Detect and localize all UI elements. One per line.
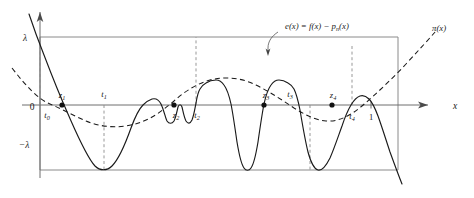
label-x-axis: x [452,101,458,111]
label-tick-one: 1 [369,112,373,122]
label-t0: t0 [44,110,50,121]
label-t2: t2 [194,110,199,121]
label-upper-lambda: λ [22,33,27,43]
error-label-leader [266,32,278,56]
error-curve-path [29,14,402,184]
label-t1: t1 [101,89,106,100]
lambda-band-box [40,37,398,170]
zero-dot-z1 [59,102,64,107]
label-z2: z2 [172,110,179,121]
extrema-labels: t0 t1 t2 t3 t4 [44,89,354,122]
label-z4: z4 [329,90,336,101]
zero-dot-z2 [171,102,176,107]
label-origin: 0 [30,102,35,112]
label-t3: t3 [287,89,292,100]
equioscillation-figure: λ −λ 0 x 1 z1 z2 z3 z4 t0 t1 [0,0,474,198]
zero-dot-z3 [261,102,266,107]
annotation-error-curve: e(x) = f(x) − pn(x) [285,21,349,32]
zero-dot-z4 [329,102,334,107]
annotation-pi-curve: π(x) [432,23,446,33]
error-curve-group [29,14,402,184]
label-lower-lambda: −λ [19,140,30,150]
label-z1: z1 [58,90,65,101]
figure-container: λ −λ 0 x 1 z1 z2 z3 z4 t0 t1 [0,0,474,198]
label-t4: t4 [349,111,354,122]
